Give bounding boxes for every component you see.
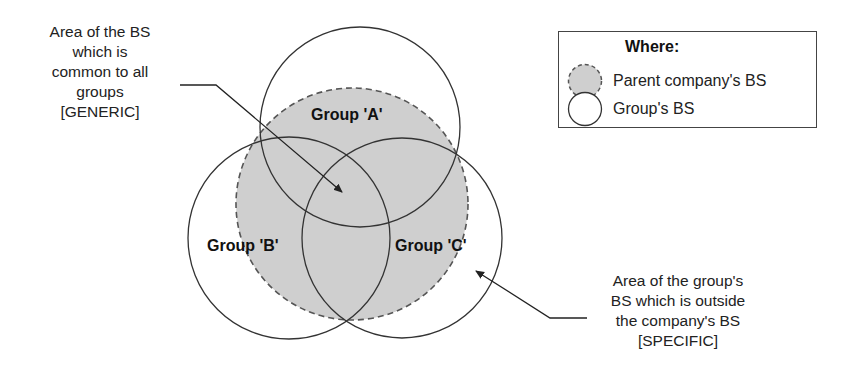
generic-callout-line: groups xyxy=(20,82,180,102)
group-b-label: Group 'B' xyxy=(207,237,279,255)
generic-callout-line: which is xyxy=(20,42,180,62)
generic-callout: Area of the BS which is common to all gr… xyxy=(20,22,180,122)
specific-callout: Area of the group's BS which is outside … xyxy=(588,271,768,351)
legend-title: Where: xyxy=(625,38,679,56)
generic-callout-line: Area of the BS xyxy=(20,22,180,42)
specific-pointer-arrow xyxy=(476,271,587,318)
specific-callout-line: the company's BS xyxy=(588,311,768,331)
legend-item-label: Group's BS xyxy=(613,100,694,118)
specific-callout-line: Area of the group's xyxy=(588,271,768,291)
legend-item-label: Parent company's BS xyxy=(613,72,766,90)
specific-callout-line: BS which is outside xyxy=(588,291,768,311)
generic-callout-line: [GENERIC] xyxy=(20,102,180,122)
group-a-label: Group 'A' xyxy=(311,106,383,124)
legend-box: Where: Parent company's BS Group's BS xyxy=(558,31,817,128)
group-c-label: Group 'C' xyxy=(395,237,467,255)
generic-callout-line: common to all xyxy=(20,62,180,82)
specific-callout-line: [SPECIFIC] xyxy=(588,331,768,351)
outline-circle-icon xyxy=(567,91,603,127)
legend-item-group: Group's BS xyxy=(567,91,694,127)
